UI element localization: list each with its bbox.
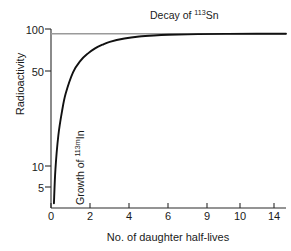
plot-area <box>0 0 291 251</box>
series-line-growth <box>54 34 286 204</box>
chart-figure: Radioactivity 100 50 10 5 0 2 4 6 9 10 1… <box>0 0 291 251</box>
